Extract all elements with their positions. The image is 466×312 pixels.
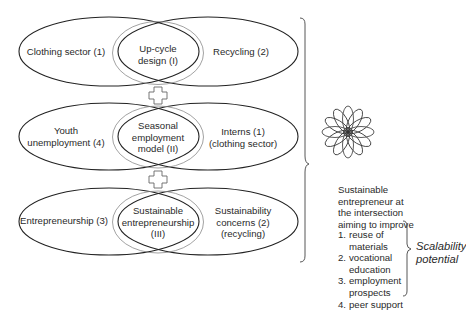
plus-icon [149, 87, 167, 104]
row-1-left-label: Clothing sector (1) [27, 46, 105, 58]
row-1-right-label: Recycling (2) [213, 46, 269, 58]
outcome-caption: Sustainable entrepreneur at the intersec… [338, 184, 448, 230]
flower-star-icon [322, 106, 374, 158]
row-3-left-label: Entrepreneurship (3) [20, 215, 108, 227]
row-2-right-label: Interns (1)(clothing sector) [209, 126, 277, 149]
row-3-center-label: Sustainableentrepreneurship(III) [122, 205, 195, 240]
list-item: 2.vocationaleducation [338, 252, 403, 275]
list-brace [403, 221, 411, 296]
list-item: 4.peer support [338, 299, 403, 311]
list-item: 1.reuse ofmaterials [338, 229, 403, 252]
right-brace [300, 18, 309, 262]
list-item: 3.employmentprospects [338, 275, 403, 298]
plus-icon [149, 171, 167, 188]
row-3-right-label: Sustainabilityconcerns (2)(recycling) [215, 205, 272, 240]
row-2-center-label: Seasonalemploymentmodel (II) [132, 120, 184, 155]
row-2-left-label: Youthunemployment (4) [27, 125, 104, 148]
improvement-list: 1.reuse ofmaterials 2.vocationaleducatio… [338, 229, 403, 310]
row-1-center-label: Up-cycledesign (I) [138, 43, 178, 66]
scalability-label: Scalability potential [416, 240, 466, 266]
